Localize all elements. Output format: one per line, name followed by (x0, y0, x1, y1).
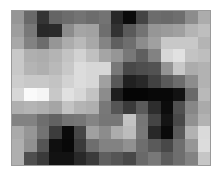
heatmap-cell (173, 11, 185, 24)
heatmap-cell (185, 152, 197, 165)
heatmap-cell (86, 37, 98, 50)
heatmap-cell (161, 75, 173, 88)
heatmap-cell (173, 139, 185, 152)
heatmap-cell (136, 101, 148, 114)
heatmap-cell (198, 24, 210, 37)
heatmap-cell (12, 37, 24, 50)
heatmap-cell (37, 62, 49, 75)
heatmap-cell (148, 75, 160, 88)
heatmap-cell (123, 49, 135, 62)
heatmap-cell (62, 88, 74, 101)
heatmap-cell (12, 152, 24, 165)
heatmap-cell (148, 114, 160, 127)
heatmap-cell (37, 126, 49, 139)
heatmap-cell (111, 62, 123, 75)
heatmap-cell (111, 139, 123, 152)
heatmap-cell (173, 88, 185, 101)
heatmap-cell (99, 37, 111, 50)
heatmap-cell (86, 62, 98, 75)
heatmap-cell (37, 114, 49, 127)
heatmap-cell (123, 62, 135, 75)
heatmap-cell (111, 11, 123, 24)
heatmap-cell (173, 75, 185, 88)
heatmap-cell (123, 24, 135, 37)
heatmap-cell (86, 88, 98, 101)
heatmap-cell (123, 114, 135, 127)
heatmap-cell (173, 101, 185, 114)
heatmap-cell (173, 62, 185, 75)
heatmap-cell (198, 11, 210, 24)
heatmap-cell (185, 139, 197, 152)
heatmap-cell (198, 152, 210, 165)
heatmap-cell (12, 126, 24, 139)
heatmap-cell (198, 114, 210, 127)
heatmap-cell (12, 101, 24, 114)
heatmap-cell (161, 152, 173, 165)
heatmap-cell (111, 24, 123, 37)
heatmap-cell (49, 126, 61, 139)
heatmap-cell (136, 24, 148, 37)
heatmap-cell (198, 101, 210, 114)
heatmap-cell (161, 62, 173, 75)
heatmap-cell (148, 37, 160, 50)
heatmap-cell (62, 114, 74, 127)
heatmap-cell (12, 11, 24, 24)
heatmap-cell (161, 101, 173, 114)
heatmap-cell (62, 75, 74, 88)
heatmap-cell (74, 62, 86, 75)
heatmap-cell (185, 37, 197, 50)
heatmap-cell (173, 114, 185, 127)
heatmap-cell (62, 11, 74, 24)
heatmap-cell (148, 101, 160, 114)
heatmap-cell (24, 139, 36, 152)
heatmap-cell (12, 49, 24, 62)
heatmap-cell (185, 24, 197, 37)
heatmap-cell (185, 62, 197, 75)
heatmap-cell (24, 75, 36, 88)
heatmap-cell (37, 49, 49, 62)
heatmap-cell (148, 139, 160, 152)
heatmap-cell (185, 49, 197, 62)
heatmap-cell (86, 75, 98, 88)
heatmap-cell (62, 37, 74, 50)
heatmap-cell (123, 101, 135, 114)
heatmap-cell (24, 88, 36, 101)
heatmap-cell (49, 114, 61, 127)
heatmap-cell (37, 88, 49, 101)
heatmap-cell (49, 152, 61, 165)
heatmap-cell (111, 152, 123, 165)
heatmap-cell (161, 114, 173, 127)
heatmap-cell (24, 49, 36, 62)
heatmap-cell (111, 75, 123, 88)
heatmap-cell (12, 139, 24, 152)
heatmap-cell (74, 101, 86, 114)
heatmap-cell (37, 37, 49, 50)
heatmap-cell (37, 11, 49, 24)
heatmap-cell (99, 24, 111, 37)
heatmap-cell (62, 24, 74, 37)
heatmap-cell (99, 62, 111, 75)
heatmap-cell (86, 24, 98, 37)
heatmap-cell (24, 114, 36, 127)
heatmap-cell (24, 11, 36, 24)
heatmap-cell (136, 49, 148, 62)
heatmap-cell (74, 152, 86, 165)
heatmap-cell (86, 11, 98, 24)
heatmap-cell (148, 152, 160, 165)
heatmap-cell (12, 88, 24, 101)
heatmap-cell (62, 101, 74, 114)
heatmap-cell (173, 152, 185, 165)
heatmap-cell (49, 62, 61, 75)
heatmap-cell (198, 126, 210, 139)
heatmap-cell (136, 152, 148, 165)
heatmap-cell (123, 88, 135, 101)
heatmap-cell (111, 101, 123, 114)
heatmap-cell (161, 88, 173, 101)
heatmap-cell (37, 152, 49, 165)
heatmap-cell (123, 139, 135, 152)
heatmap-cell (148, 49, 160, 62)
heatmap-cell (148, 24, 160, 37)
heatmap-cell (62, 49, 74, 62)
heatmap-cell (136, 11, 148, 24)
heatmap-cell (24, 24, 36, 37)
